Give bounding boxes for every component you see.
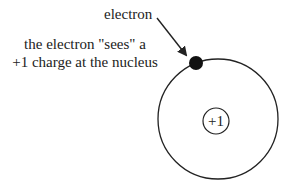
electron-dot	[189, 56, 203, 70]
electron-arrow	[157, 18, 186, 55]
atom-diagram: +1	[0, 0, 292, 190]
nucleus-charge: +1	[208, 113, 224, 129]
